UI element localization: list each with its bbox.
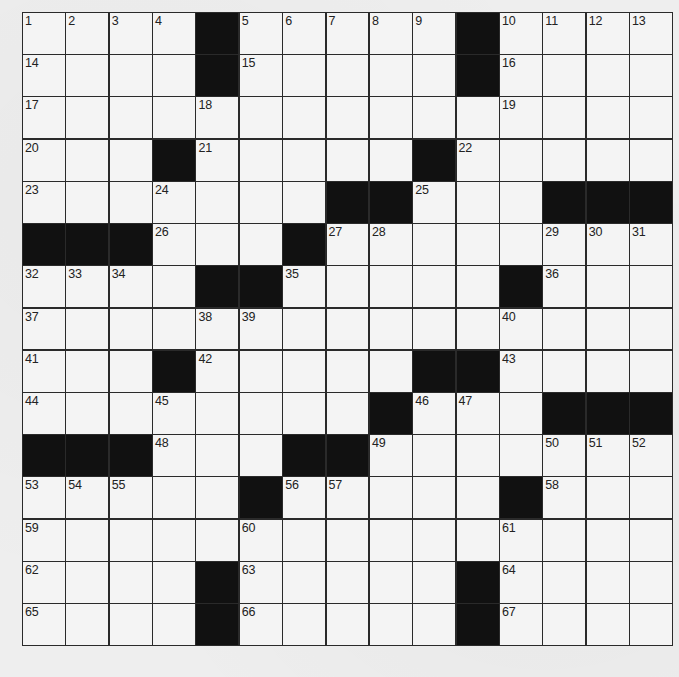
grid-cell[interactable]: 22 xyxy=(457,140,499,181)
grid-cell[interactable] xyxy=(66,520,108,561)
grid-cell[interactable] xyxy=(413,266,455,307)
grid-cell[interactable]: 37 xyxy=(23,309,65,350)
grid-cell[interactable] xyxy=(370,351,412,392)
grid-cell[interactable]: 65 xyxy=(23,604,65,645)
grid-cell[interactable] xyxy=(283,520,325,561)
grid-cell[interactable]: 32 xyxy=(23,266,65,307)
grid-cell[interactable] xyxy=(153,266,195,307)
grid-cell[interactable] xyxy=(370,55,412,96)
grid-cell[interactable] xyxy=(66,351,108,392)
grid-cell[interactable] xyxy=(457,182,499,223)
grid-cell[interactable] xyxy=(66,562,108,603)
grid-cell[interactable]: 11 xyxy=(543,13,585,54)
grid-cell[interactable] xyxy=(587,55,629,96)
grid-cell[interactable] xyxy=(587,266,629,307)
grid-cell[interactable]: 43 xyxy=(500,351,542,392)
grid-cell[interactable] xyxy=(543,97,585,138)
grid-cell[interactable] xyxy=(283,562,325,603)
grid-cell[interactable] xyxy=(413,55,455,96)
grid-cell[interactable] xyxy=(543,562,585,603)
grid-cell[interactable] xyxy=(196,520,238,561)
grid-cell[interactable]: 42 xyxy=(196,351,238,392)
grid-cell[interactable] xyxy=(413,604,455,645)
grid-cell[interactable] xyxy=(327,562,369,603)
grid-cell[interactable] xyxy=(370,562,412,603)
grid-cell[interactable] xyxy=(66,309,108,350)
grid-cell[interactable] xyxy=(370,97,412,138)
grid-cell[interactable] xyxy=(66,97,108,138)
grid-cell[interactable] xyxy=(110,604,152,645)
grid-cell[interactable]: 57 xyxy=(327,477,369,518)
grid-cell[interactable]: 25 xyxy=(413,182,455,223)
grid-cell[interactable] xyxy=(110,140,152,181)
grid-cell[interactable] xyxy=(240,351,282,392)
grid-cell[interactable] xyxy=(587,351,629,392)
grid-cell[interactable] xyxy=(153,55,195,96)
grid-cell[interactable] xyxy=(587,604,629,645)
grid-cell[interactable]: 3 xyxy=(110,13,152,54)
grid-cell[interactable] xyxy=(543,351,585,392)
grid-cell[interactable] xyxy=(630,477,672,518)
grid-cell[interactable]: 34 xyxy=(110,266,152,307)
grid-cell[interactable]: 23 xyxy=(23,182,65,223)
grid-cell[interactable] xyxy=(413,562,455,603)
grid-cell[interactable] xyxy=(413,97,455,138)
grid-cell[interactable]: 21 xyxy=(196,140,238,181)
grid-cell[interactable] xyxy=(327,55,369,96)
grid-cell[interactable] xyxy=(457,224,499,265)
grid-cell[interactable] xyxy=(283,182,325,223)
grid-cell[interactable]: 55 xyxy=(110,477,152,518)
grid-cell[interactable] xyxy=(587,520,629,561)
grid-cell[interactable] xyxy=(283,97,325,138)
grid-cell[interactable] xyxy=(413,435,455,476)
grid-cell[interactable]: 26 xyxy=(153,224,195,265)
grid-cell[interactable]: 67 xyxy=(500,604,542,645)
grid-cell[interactable] xyxy=(327,309,369,350)
grid-cell[interactable]: 6 xyxy=(283,13,325,54)
grid-cell[interactable] xyxy=(370,266,412,307)
grid-cell[interactable]: 39 xyxy=(240,309,282,350)
grid-cell[interactable]: 66 xyxy=(240,604,282,645)
grid-cell[interactable] xyxy=(543,140,585,181)
grid-cell[interactable]: 35 xyxy=(283,266,325,307)
grid-cell[interactable]: 14 xyxy=(23,55,65,96)
grid-cell[interactable]: 20 xyxy=(23,140,65,181)
grid-cell[interactable]: 40 xyxy=(500,309,542,350)
grid-cell[interactable] xyxy=(413,309,455,350)
grid-cell[interactable] xyxy=(283,351,325,392)
grid-cell[interactable] xyxy=(110,562,152,603)
grid-cell[interactable] xyxy=(457,309,499,350)
grid-cell[interactable] xyxy=(110,351,152,392)
grid-cell[interactable] xyxy=(457,435,499,476)
grid-cell[interactable]: 47 xyxy=(457,393,499,434)
grid-cell[interactable]: 63 xyxy=(240,562,282,603)
grid-cell[interactable] xyxy=(196,224,238,265)
grid-cell[interactable] xyxy=(587,97,629,138)
grid-cell[interactable] xyxy=(66,182,108,223)
grid-cell[interactable]: 52 xyxy=(630,435,672,476)
grid-cell[interactable] xyxy=(283,604,325,645)
grid-cell[interactable]: 51 xyxy=(587,435,629,476)
grid-cell[interactable] xyxy=(153,604,195,645)
grid-cell[interactable] xyxy=(457,266,499,307)
grid-cell[interactable]: 54 xyxy=(66,477,108,518)
grid-cell[interactable] xyxy=(327,351,369,392)
grid-cell[interactable] xyxy=(240,393,282,434)
grid-cell[interactable]: 33 xyxy=(66,266,108,307)
grid-cell[interactable]: 38 xyxy=(196,309,238,350)
grid-cell[interactable] xyxy=(283,309,325,350)
grid-cell[interactable] xyxy=(240,182,282,223)
grid-cell[interactable]: 29 xyxy=(543,224,585,265)
grid-cell[interactable]: 53 xyxy=(23,477,65,518)
grid-cell[interactable] xyxy=(457,477,499,518)
grid-cell[interactable] xyxy=(66,393,108,434)
grid-cell[interactable] xyxy=(370,604,412,645)
grid-cell[interactable]: 59 xyxy=(23,520,65,561)
grid-cell[interactable] xyxy=(587,562,629,603)
grid-cell[interactable] xyxy=(413,520,455,561)
grid-cell[interactable] xyxy=(283,140,325,181)
grid-cell[interactable] xyxy=(110,309,152,350)
grid-cell[interactable]: 2 xyxy=(66,13,108,54)
grid-cell[interactable]: 24 xyxy=(153,182,195,223)
grid-cell[interactable]: 5 xyxy=(240,13,282,54)
